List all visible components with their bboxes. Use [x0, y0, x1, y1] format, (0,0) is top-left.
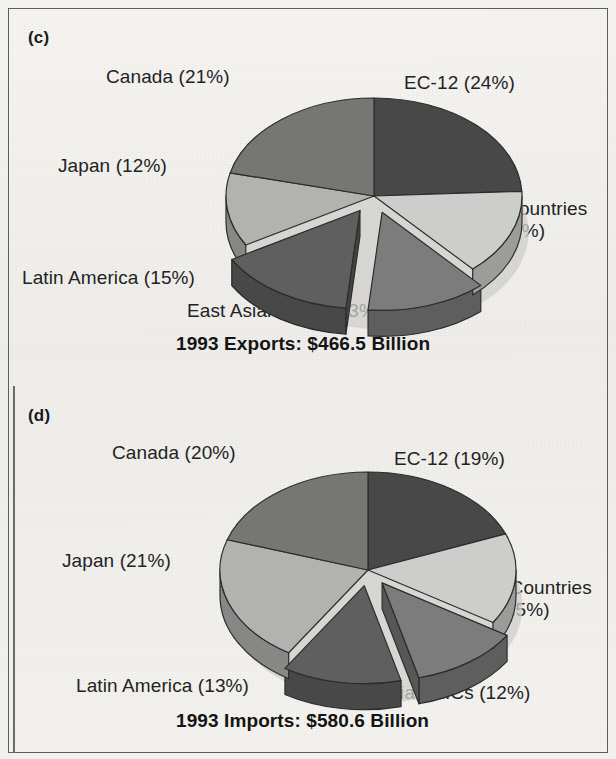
slice-label-canada-imports: Canada (20%) [112, 442, 236, 464]
panel-letter-d: (d) [28, 406, 50, 426]
figure-panel-d: (d) Canada (20%) EC-12 (19%) Other Count… [0, 380, 616, 759]
pie-chart-exports [160, 88, 600, 348]
slice-label-japan-imports: Japan (21%) [62, 550, 171, 572]
chart-caption-exports: 1993 Exports: $466.5 Billion [176, 333, 430, 355]
panel-letter-c: (c) [28, 28, 49, 48]
slice-label-canada-exports: Canada (21%) [106, 66, 230, 88]
figure-panel-c: (c) Canada (21%) EC-12 (24%) Other Count… [0, 0, 616, 380]
slice-label-japan-exports: Japan (12%) [58, 155, 167, 177]
chart-caption-imports: 1993 Imports: $580.6 Billion [176, 710, 429, 732]
pie-chart-imports [160, 462, 590, 722]
